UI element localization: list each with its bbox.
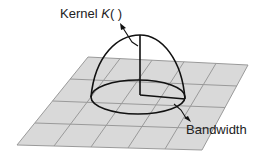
bandwidth-label: Bandwidth: [186, 122, 247, 137]
kernel-diagram: [0, 0, 262, 163]
kernel-parens: ( ): [110, 6, 122, 21]
kernel-label: Kernel K( ): [60, 6, 122, 21]
kernel-symbol: K: [101, 6, 110, 21]
kernel-arrowhead-icon: [120, 23, 126, 30]
kernel-label-text: Kernel: [60, 6, 101, 21]
